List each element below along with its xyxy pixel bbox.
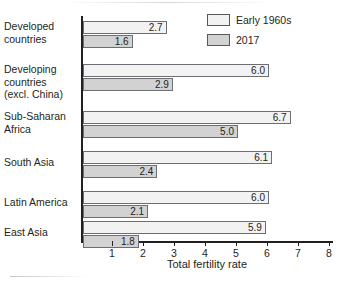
bar-group-item: 2.9: [83, 78, 173, 91]
bar: [83, 125, 238, 138]
bar-group-item: 1.6: [83, 35, 133, 48]
category-label-line: countries: [4, 76, 79, 89]
category-label-line: Developing: [4, 63, 79, 76]
bar: [83, 64, 269, 77]
bar-group-item: 6.1: [83, 151, 272, 164]
category-label: Developingcountries(excl. China): [4, 63, 79, 101]
category-label: Sub-SaharanAfrica: [4, 110, 79, 135]
bar: [83, 151, 272, 164]
bar-value-label: 1.6: [115, 35, 129, 48]
bar-value-label: 2.4: [139, 165, 153, 178]
category-label-line: countries: [4, 33, 79, 46]
bar: [83, 191, 269, 204]
category-label-line: Africa: [4, 123, 79, 136]
plot-area: 2.71.66.02.96.75.06.12.46.02.15.91.81234…: [81, 16, 333, 241]
category-label: East Asia: [4, 226, 79, 239]
x-axis-tick: [205, 241, 206, 246]
x-axis-title: Total fertility rate: [81, 258, 333, 270]
bar-value-label: 2.9: [155, 78, 169, 91]
bar-value-label: 6.0: [251, 64, 265, 77]
bar: [83, 111, 291, 124]
top-edge-artifact: [62, 2, 272, 3]
category-label: Developedcountries: [4, 20, 79, 45]
category-label-line: South Asia: [4, 156, 79, 169]
x-axis-tick: [267, 241, 268, 246]
bar-group-item: 5.9: [83, 221, 266, 234]
bar-value-label: 5.0: [220, 125, 234, 138]
bar-value-label: 2.7: [149, 21, 163, 34]
bar-value-label: 6.0: [251, 191, 265, 204]
bar-value-label: 2.1: [130, 205, 144, 218]
category-label-line: (excl. China): [4, 88, 79, 101]
x-axis-tick: [112, 241, 113, 246]
bar-value-label: 5.9: [248, 221, 262, 234]
bar-group-item: 6.0: [83, 191, 269, 204]
category-label: Latin America: [4, 196, 79, 209]
category-label-line: East Asia: [4, 226, 79, 239]
category-label-line: Developed: [4, 20, 79, 33]
category-axis-labels: DevelopedcountriesDevelopingcountries(ex…: [4, 16, 79, 241]
bar-group-item: 5.0: [83, 125, 238, 138]
x-axis-tick: [298, 241, 299, 246]
bar-group-item: 6.0: [83, 64, 269, 77]
bar: [83, 221, 266, 234]
x-axis-tick: [143, 241, 144, 246]
bar-value-label: 6.1: [254, 151, 268, 164]
category-label-line: Sub-Saharan: [4, 110, 79, 123]
fertility-rate-bar-chart: Early 1960s2017 DevelopedcountriesDevelo…: [0, 0, 350, 283]
x-axis-tick: [174, 241, 175, 246]
bar-group-item: 2.7: [83, 21, 167, 34]
x-axis-tick: [329, 241, 330, 246]
category-label-line: Latin America: [4, 196, 79, 209]
x-axis-tick: [236, 241, 237, 246]
bar-value-label: 6.7: [273, 111, 287, 124]
bar-group-item: 2.1: [83, 205, 148, 218]
bar-group-item: 6.7: [83, 111, 291, 124]
bottom-edge-artifact: [10, 276, 88, 277]
bar-group-item: 2.4: [83, 165, 157, 178]
category-label: South Asia: [4, 156, 79, 169]
